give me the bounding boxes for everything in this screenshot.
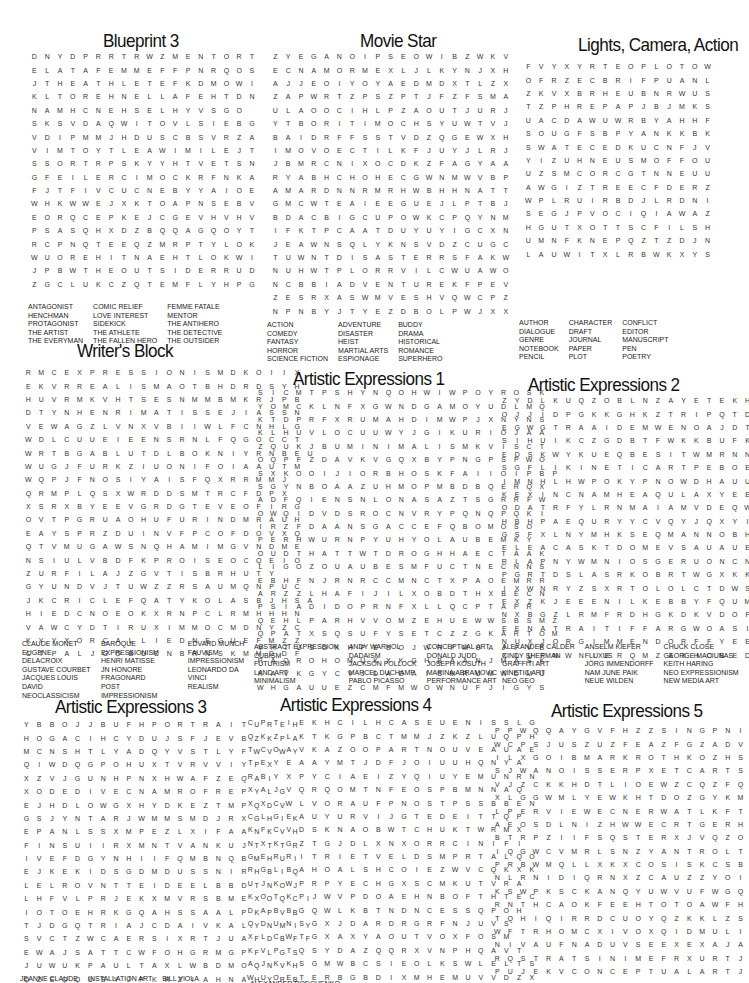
grid-row: VDIPMMJHDUSCBSVRZA	[28, 130, 258, 143]
puzzle-artistic-expressions-5: Artistic Expressions 5 PPWQQAYGVFHZZSING…	[495, 690, 749, 983]
grid-letter: B	[182, 134, 195, 141]
grid-letter: N	[385, 840, 398, 847]
grid-letter: N	[650, 170, 663, 177]
grid-letter: G	[696, 727, 709, 734]
grid-letter: D	[305, 510, 318, 517]
grid-letter: L	[97, 748, 110, 755]
grid-letter: K	[135, 895, 148, 902]
grid-letter: R	[600, 518, 613, 525]
grid-letter: H	[33, 895, 46, 902]
grid-letter: Q	[267, 456, 280, 463]
grid-letter: E	[562, 518, 575, 525]
grid-letter: R	[79, 93, 92, 100]
word-list-item: GENRE	[519, 336, 559, 345]
grid-letter: A	[410, 107, 423, 114]
grid-letter: H	[320, 174, 333, 181]
grid-letter: S	[420, 496, 433, 503]
grid-letter: B	[487, 174, 500, 181]
grid-letter: R	[150, 503, 163, 510]
grid-letter: Q	[79, 241, 92, 248]
grid-letter: O	[703, 558, 716, 565]
grid-letter: A	[522, 184, 535, 191]
grid-letter: T	[308, 853, 321, 860]
grid-letter: V	[150, 423, 163, 430]
grid-letter: S	[295, 960, 308, 967]
grid-letter: G	[48, 463, 61, 470]
grid-letter: I	[220, 187, 233, 194]
grid-letter: Z	[334, 746, 347, 753]
word-list-item: CLAUDE MONET	[22, 640, 91, 649]
word-list-item: MARINA ABRAMOVIC	[427, 669, 497, 678]
grid-letter: Y	[645, 915, 658, 922]
grid-letter: O	[632, 928, 645, 935]
grid-letter: I	[112, 624, 125, 631]
grid-row: ELATAFEMMEFFPNRQOS	[28, 63, 258, 76]
grid-letter: H	[734, 901, 747, 908]
grid-letter: P	[54, 241, 67, 248]
grid-letter: T	[137, 450, 150, 457]
grid-letter: J	[71, 721, 84, 728]
grid-letter: I	[410, 267, 423, 274]
grid-letter: U	[308, 813, 321, 820]
grid-letter: T	[118, 254, 131, 261]
grid-letter: T	[459, 563, 472, 570]
grid-letter: I	[581, 821, 594, 828]
grid-letter: C	[637, 224, 650, 231]
word-column: ABSTRACT EXPRESSIONCUBISMFUTURISMLAND AR…	[254, 643, 339, 686]
grid-letter: O	[307, 120, 320, 127]
grid-letter: V	[199, 922, 212, 929]
grid-letter: C	[60, 436, 73, 443]
grid-letter: J	[472, 416, 485, 423]
grid-letter: W	[79, 200, 92, 207]
grid-letter: T	[346, 759, 359, 766]
grid-letter: L	[41, 67, 54, 74]
grid-letter: L	[709, 915, 722, 922]
grid-letter: S	[333, 241, 346, 248]
grid-letter: A	[346, 800, 359, 807]
grid-letter: V	[124, 503, 137, 510]
grid-letter: O	[716, 531, 729, 538]
grid-letter: Z	[573, 184, 586, 191]
grid-letter: O	[58, 721, 71, 728]
grid-letter: I	[734, 874, 747, 881]
grid-letter: T	[305, 389, 318, 396]
grid-letter: Z	[701, 184, 714, 191]
grid-letter: M	[169, 53, 182, 60]
grid-letter: P	[41, 267, 54, 274]
grid-letter: R	[307, 294, 320, 301]
grid-letter: P	[346, 733, 359, 740]
grid-letter: U	[716, 437, 729, 444]
grid-letter: Z	[269, 294, 282, 301]
grid-letter: L	[295, 800, 308, 807]
grid-letter: G	[472, 456, 485, 463]
grid-letter: N	[562, 531, 575, 538]
grid-letter: P	[282, 308, 295, 315]
grid-letter: F	[663, 157, 676, 164]
grid-row: ZGCLUKCZQTEMFLYHPG	[28, 278, 258, 291]
grid-letter: S	[137, 369, 150, 376]
grid-letter: Q	[734, 888, 747, 895]
grid-letter: Q	[321, 786, 334, 793]
grid-letter: S	[384, 53, 397, 60]
grid-letter: G	[472, 630, 485, 637]
grid-letter: Q	[254, 630, 267, 637]
grid-letter: T	[436, 800, 449, 807]
grid-letter: R	[320, 120, 333, 127]
grid-letter: L	[696, 808, 709, 815]
grid-letter: E	[225, 775, 238, 782]
grid-letter: J	[334, 920, 347, 927]
grid-letter: T	[474, 893, 487, 900]
grid-letter: D	[163, 490, 176, 497]
grid-letter: U	[73, 543, 86, 550]
grid-letter: E	[690, 397, 703, 404]
grid-letter: S	[548, 170, 561, 177]
grid-letter: E	[599, 157, 612, 164]
grid-letter: F	[524, 464, 537, 471]
grid-letter: R	[92, 53, 105, 60]
grid-letter: E	[398, 960, 411, 967]
grid-letter: Y	[688, 251, 701, 258]
grid-letter: D	[435, 241, 448, 248]
grid-letter: E	[148, 828, 161, 835]
grid-letter: D	[663, 184, 676, 191]
grid-letter: E	[524, 544, 537, 551]
